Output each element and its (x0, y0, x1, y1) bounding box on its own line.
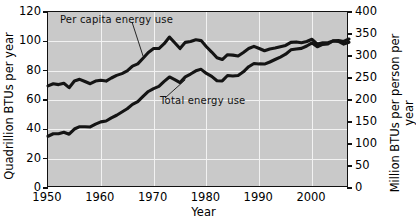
y-axis-right-tick-label: 200 (355, 92, 377, 106)
y-axis-right-title: Million BTUs per person per year (388, 28, 416, 198)
y-axis-right-tick-label: 100 (355, 136, 377, 150)
x-axis-tick-label: 1950 (32, 190, 61, 204)
y-axis-right-tick-label: 50 (355, 158, 370, 172)
x-axis-tick-label: 1970 (138, 190, 167, 204)
series-line-total-energy-use (48, 39, 349, 136)
y-axis-right-tick-label: 0 (355, 180, 362, 194)
y-axis-right-tick-label: 400 (355, 4, 377, 18)
leader-line-per-capita (132, 22, 143, 56)
x-axis-tick-label: 1980 (191, 190, 220, 204)
x-axis-tick-label: 2000 (296, 190, 325, 204)
x-axis-tick-label: 1990 (244, 190, 273, 204)
series-line-per-capita-energy-use (48, 37, 349, 88)
annotation-total-energy-use: Total energy use (160, 95, 245, 106)
y-axis-right-tick-label: 300 (355, 48, 377, 62)
y-axis-right-tick-label: 350 (355, 26, 377, 40)
y-axis-right-tick-label: 250 (355, 70, 377, 84)
x-axis-tick-label: 1960 (85, 190, 114, 204)
y-axis-left-title: Quadrillion BTUs per year (2, 21, 16, 191)
y-axis-left-tick-label: 120 (1, 4, 41, 18)
annotation-per-capita-energy-use: Per capita energy use (60, 14, 173, 25)
y-axis-right-tick-label: 150 (355, 114, 377, 128)
x-axis-title: Year (0, 205, 407, 219)
